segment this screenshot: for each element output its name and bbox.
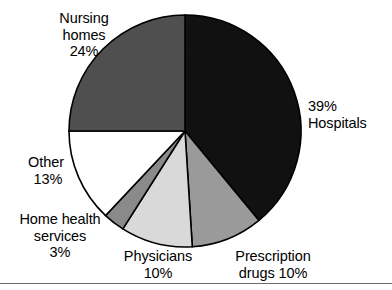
- pie-chart-figure: Nursing homes 24% 39% Hospitals Other 13…: [0, 0, 392, 290]
- pie-label-hospitals: 39% Hospitals: [308, 98, 392, 131]
- bottom-divider-rule: [0, 283, 392, 284]
- pie-label-other: Other 13%: [8, 154, 84, 187]
- pie-label-home-health-services: Home health services 3%: [2, 211, 118, 261]
- pie-label-physicians: Physicians 10%: [106, 248, 210, 281]
- pie-label-prescription-drugs: Prescription drugs 10%: [212, 248, 334, 281]
- pie-label-nursing-homes: Nursing homes 24%: [30, 10, 138, 60]
